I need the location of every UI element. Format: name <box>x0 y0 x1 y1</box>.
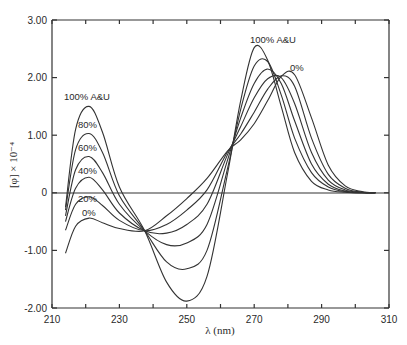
x-tick-label: 230 <box>111 314 128 325</box>
y-tick-label: 3.00 <box>28 15 48 26</box>
cd-spectrum-chart: 210230250270290310 3.002.001.000-1.00-2.… <box>0 0 407 345</box>
annotation-short-40: 40% <box>78 165 98 176</box>
annotation-short-60: 60% <box>78 142 98 153</box>
y-tick-label: -1.00 <box>24 245 47 256</box>
y-tick-label: 1.00 <box>28 130 48 141</box>
x-tick-label: 310 <box>381 314 398 325</box>
x-tick-label: 290 <box>313 314 330 325</box>
annotation-long-0: 0% <box>290 62 304 73</box>
x-axis-label: λ (nm) <box>205 324 235 337</box>
x-tick-label: 210 <box>44 314 61 325</box>
annotation-short-80: 80% <box>78 119 98 130</box>
y-tick-label: 2.00 <box>28 72 48 83</box>
y-tick-label: 0 <box>41 187 47 198</box>
annotation-short-0: 0% <box>82 207 96 218</box>
spectrum-curves <box>66 45 376 301</box>
y-tick-label: -2.00 <box>24 303 47 314</box>
y-axis-label: [φ] × 10⁻⁴ <box>7 142 19 188</box>
x-tick-label: 270 <box>246 314 263 325</box>
annotation-short-100: 100% A&U <box>64 91 110 102</box>
spectrum-curve <box>66 76 376 231</box>
spectrum-curve <box>66 69 376 246</box>
annotation-short-20: 20% <box>78 193 98 204</box>
x-tick-label: 250 <box>178 314 195 325</box>
spectrum-curve <box>66 71 376 253</box>
annotation-long-100: 100% A&U <box>250 34 296 45</box>
